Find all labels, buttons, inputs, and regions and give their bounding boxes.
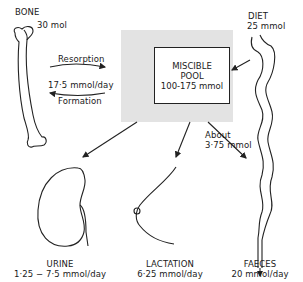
diet-label: DIET	[248, 11, 268, 21]
kidney-icon	[38, 168, 88, 246]
urine-label: URINE	[10, 259, 110, 269]
formation-label: Formation	[58, 96, 102, 106]
pool-to-urine-arrow	[83, 122, 137, 157]
intestine-icon	[251, 35, 274, 268]
diet-amount: 25 mmol	[247, 21, 285, 31]
exchange-rate: 17·5 mmol/day	[48, 80, 114, 90]
diet-to-pool-arrow	[232, 60, 250, 70]
diagram-artwork	[0, 0, 303, 282]
gut-secretion-line1: About	[205, 130, 231, 140]
bone-label: BONE	[15, 7, 40, 17]
urine-rate: 1·25 − 7·5 mmol/day	[5, 269, 115, 279]
bone-amount: 30 mol	[37, 20, 67, 30]
pool-to-lactation-arrow	[176, 122, 190, 157]
breast-icon	[134, 167, 176, 244]
bone-femur-icon	[14, 27, 46, 148]
faeces-rate: 20 mmol/day	[210, 269, 303, 279]
lactation-label: LACTATION	[120, 259, 220, 269]
gut-secretion-line2: 3·75 mmol	[205, 140, 252, 150]
resorption-arrow	[50, 64, 105, 67]
faeces-label: FAECES	[210, 259, 303, 269]
resorption-label: Resorption	[58, 54, 105, 64]
lactation-rate: 6·25 mmol/day	[120, 269, 220, 279]
